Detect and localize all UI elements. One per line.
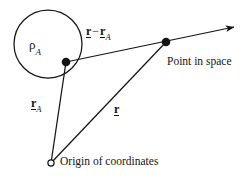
rho-subscript: A	[36, 47, 42, 57]
source-point-dot	[62, 58, 71, 67]
diagram-canvas	[0, 0, 244, 180]
rho-symbol: ρ	[29, 37, 36, 52]
vector-r-label: r	[114, 103, 119, 116]
vector-ra-subscript: A	[105, 32, 110, 42]
minus-operator: −	[91, 24, 100, 38]
charge-density-label: ρA	[29, 38, 41, 55]
origin-marker	[48, 160, 54, 166]
vector-r-base-symbol: r	[114, 104, 119, 116]
origin-of-coordinates-label: Origin of coordinates	[60, 156, 158, 168]
vector-r-minus-ra-label: r−rA	[86, 25, 111, 40]
vector-ra-label: rA	[31, 97, 42, 112]
vector-ra-label-subscript: A	[36, 104, 41, 114]
point-in-space-label: Point in space	[167, 56, 232, 68]
charge-distribution-circle	[14, 10, 82, 78]
field-point-dot	[162, 38, 171, 47]
vector-diagram-figure: ρA r−rA rA r Point in space Origin of co…	[0, 0, 244, 180]
